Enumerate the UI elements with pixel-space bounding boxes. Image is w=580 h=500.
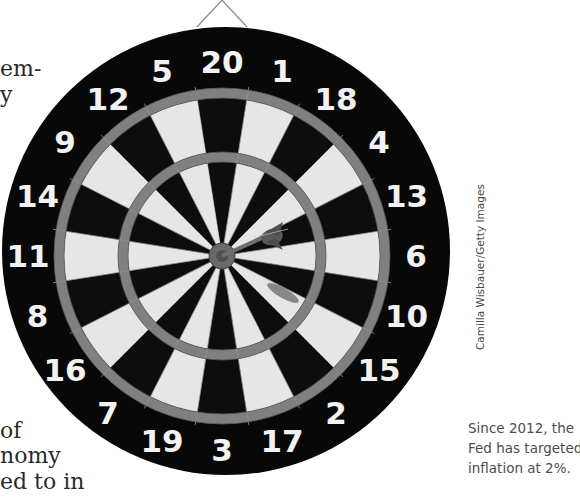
sector-number-9: 9 <box>54 124 76 160</box>
sector-number-17: 17 <box>260 423 303 459</box>
sector-number-10: 10 <box>385 298 428 334</box>
sector-number-4: 4 <box>368 124 390 160</box>
sector-number-3: 3 <box>211 432 233 468</box>
sector-number-5: 5 <box>151 53 173 89</box>
sector-number-18: 18 <box>314 81 357 117</box>
sector-number-20: 20 <box>200 44 243 80</box>
treble-3 <box>206 349 239 360</box>
figure-caption: Since 2012, the Fed has targeted inflati… <box>468 418 580 478</box>
caption-line-3: inflation at 2%. <box>468 458 580 478</box>
sector-number-1: 1 <box>271 53 293 89</box>
sector-number-12: 12 <box>86 81 129 117</box>
sector-number-11: 11 <box>6 238 49 274</box>
sector-number-13: 13 <box>385 178 428 214</box>
photo-credit: Camilla Wisbauer/Getty Images <box>474 184 486 350</box>
dartboard-segments <box>53 87 391 425</box>
sector-number-8: 8 <box>27 298 49 334</box>
treble-20 <box>206 152 239 163</box>
caption-line-1: Since 2012, the <box>468 418 580 438</box>
treble-6 <box>315 240 326 273</box>
sector-number-15: 15 <box>357 352 400 388</box>
hanging-string-icon <box>197 0 247 27</box>
sector-number-16: 16 <box>43 352 86 388</box>
sector-number-14: 14 <box>16 178 59 214</box>
sector-number-19: 19 <box>140 423 183 459</box>
treble-11 <box>118 240 129 273</box>
sector-number-7: 7 <box>97 395 119 431</box>
sector-number-6: 6 <box>405 238 427 274</box>
sector-number-2: 2 <box>325 395 347 431</box>
caption-line-2: Fed has targeted <box>468 438 580 458</box>
